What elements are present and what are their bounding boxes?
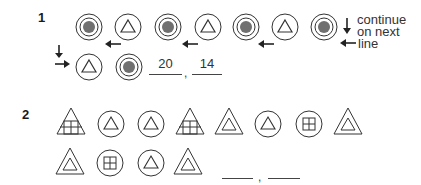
p1-row1-shape-5 <box>233 14 259 40</box>
p1-row1-shape-4 <box>195 14 221 40</box>
p2-row1-shape-1 <box>57 108 85 134</box>
arrow-down-icon <box>55 45 63 58</box>
p1-row2-shape-1 <box>76 54 102 80</box>
p2-row1-shape-6 <box>255 111 281 137</box>
answer-separator: , <box>258 170 261 184</box>
arrow-left-icon <box>258 40 274 48</box>
p2-row2-shape-3 <box>138 150 164 176</box>
answer-2-blank-line <box>192 74 222 75</box>
p2-row1-shape-7 <box>296 111 322 137</box>
p2-row1-shape-3 <box>138 111 164 137</box>
p2-row1-shape-4 <box>176 108 204 134</box>
p2-row1-shape-5 <box>215 108 243 134</box>
p1-row1-shape-6 <box>272 14 298 40</box>
continue-note-line-3: line <box>358 37 378 50</box>
p2-row1-shape-2 <box>98 111 124 137</box>
p2-row2-shape-4 <box>174 148 202 174</box>
p1-row1-shape-7 <box>311 14 337 40</box>
p2-row2-shape-1 <box>56 148 84 174</box>
answer-1-field[interactable]: 20 <box>149 56 182 71</box>
arrow-left-icon <box>340 39 356 47</box>
arrow-left-icon <box>182 40 198 48</box>
problem-2-number: 2 <box>22 107 29 122</box>
p1-row1-shape-3 <box>155 14 181 40</box>
answer-3-blank-line <box>222 178 253 179</box>
p2-row1-shape-8 <box>334 108 362 134</box>
answer-1-blank-line <box>149 74 182 75</box>
answer-4-blank-line <box>268 178 300 179</box>
arrow-right-icon <box>55 60 70 68</box>
answer-separator: , <box>184 66 187 80</box>
p2-row2-shape-2 <box>97 150 123 176</box>
answer-2-field[interactable]: 14 <box>192 56 222 71</box>
p1-row1-shape-1 <box>76 14 102 40</box>
p1-row1-shape-2 <box>115 14 141 40</box>
arrow-down-icon <box>343 18 351 34</box>
p1-row2-shape-2 <box>116 54 142 80</box>
arrow-left-icon <box>105 40 121 48</box>
